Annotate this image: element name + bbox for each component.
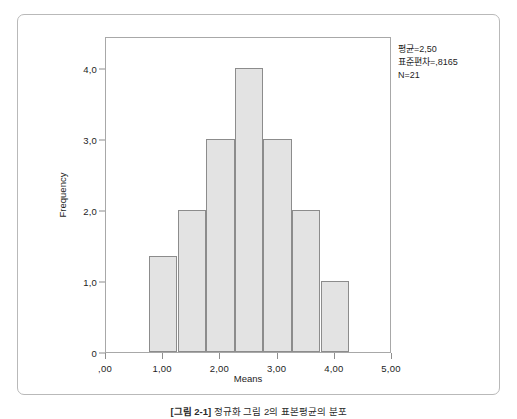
histogram-bar	[321, 281, 350, 352]
x-axis-tick-label: 2,00	[210, 363, 229, 374]
figure-caption: [그림 2-1] 정규화 그림 2의 표본평균의 분포	[0, 404, 517, 418]
stat-std-dev: 표준편차=,8165	[398, 56, 458, 69]
x-axis-tick-mark	[391, 353, 392, 359]
figure-caption-text: 정규화 그림 2의 표본평균의 분포	[214, 406, 347, 417]
x-axis-title: Means	[234, 373, 263, 384]
x-axis-tick-label: 5,00	[381, 363, 400, 374]
histogram-bar	[263, 139, 292, 352]
x-axis-tick-label: ,00	[98, 363, 112, 374]
histogram-bar	[206, 139, 235, 352]
x-axis-tick-mark	[334, 353, 335, 359]
x-axis-tick-mark	[162, 353, 163, 359]
figure-card: 01,02,03,04,0 Frequency ,001,002,003,004…	[17, 14, 500, 395]
x-axis-tick-label: 4,00	[324, 363, 343, 374]
x-axis-tick-mark	[105, 353, 106, 359]
histogram-chart: 01,02,03,04,0 Frequency ,001,002,003,004…	[18, 15, 501, 396]
x-axis-tick-label: 1,00	[153, 363, 172, 374]
x-axis-tick-mark	[219, 353, 220, 359]
y-axis-tick-label: 2,0	[83, 205, 97, 216]
figure-caption-label: [그림 2-1]	[170, 406, 211, 417]
y-axis-tick-label: 1,0	[83, 276, 97, 287]
y-axis-title: Frequency	[57, 173, 68, 218]
histogram-bar	[178, 210, 207, 352]
bars-layer	[106, 38, 390, 352]
plot-area	[105, 37, 391, 353]
y-axis-tick-label: 3,0	[83, 134, 97, 145]
y-axis-tick-label: 4,0	[83, 63, 97, 74]
statistics-annotation: 평균=2,50 표준편차=,8165 N=21	[398, 43, 458, 82]
stat-mean: 평균=2,50	[398, 43, 458, 56]
x-axis-tick-mark	[277, 353, 278, 359]
histogram-bar	[292, 210, 321, 352]
stat-sample-size: N=21	[398, 69, 458, 82]
x-axis-tick-label: 3,00	[267, 363, 286, 374]
histogram-bar	[149, 256, 178, 352]
histogram-bar	[235, 68, 264, 352]
y-axis-tick-label: 0	[92, 348, 97, 359]
